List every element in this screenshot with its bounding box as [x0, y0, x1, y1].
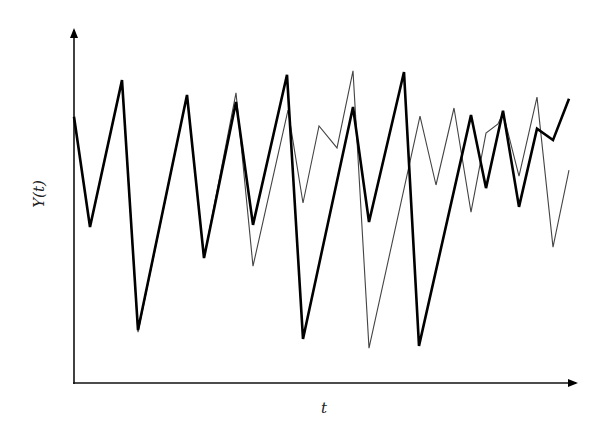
x-axis-label: t: [316, 398, 332, 418]
thick-series-line: [74, 72, 569, 346]
y-axis-label: Y(t): [27, 179, 51, 209]
line-chart: [0, 0, 602, 433]
thin-series-line: [74, 71, 569, 348]
